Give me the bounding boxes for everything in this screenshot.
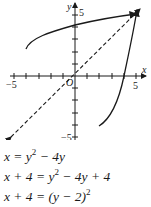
y-max-label: 5: [79, 7, 84, 18]
x-max-label: 5: [133, 80, 138, 91]
equation-1: x = y2 − 4y: [4, 148, 65, 164]
y-axis-label: y: [66, 1, 72, 12]
origin-label: O: [66, 77, 73, 88]
x-axis-label: x: [141, 64, 147, 75]
equation-2: x + 4 = y2 − 4y + 4: [4, 168, 110, 184]
curve-parabola-upper: [26, 14, 136, 49]
curve-parabola-inverse: [99, 10, 137, 126]
x-min-label: −5: [6, 79, 17, 90]
graph: x y O −5 5 5 −5: [0, 0, 151, 140]
y-min-label: −5: [61, 132, 72, 140]
equation-3: x + 4 = (y − 2)2: [4, 188, 91, 204]
